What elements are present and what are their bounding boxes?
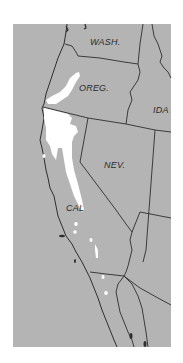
label-oregon: OREG. bbox=[79, 83, 109, 93]
label-california: CAL bbox=[66, 203, 84, 213]
map-background bbox=[13, 24, 171, 347]
range-map: WASH. OREG. IDA NEV. CAL bbox=[0, 0, 183, 363]
range-spot bbox=[74, 222, 78, 226]
channel-islands bbox=[59, 235, 65, 237]
label-nevada: NEV. bbox=[104, 160, 125, 170]
range-spot bbox=[104, 291, 108, 295]
label-idaho: IDA bbox=[153, 105, 169, 115]
island-small bbox=[74, 259, 76, 263]
range-spot bbox=[90, 238, 93, 242]
label-washington: WASH. bbox=[90, 37, 120, 47]
range-spot bbox=[73, 230, 77, 234]
gulf-island bbox=[130, 333, 133, 339]
gulf-island-2 bbox=[144, 341, 147, 347]
range-spot bbox=[43, 154, 46, 158]
range-spot bbox=[102, 275, 105, 279]
map-svg: WASH. OREG. IDA NEV. CAL bbox=[0, 0, 183, 363]
